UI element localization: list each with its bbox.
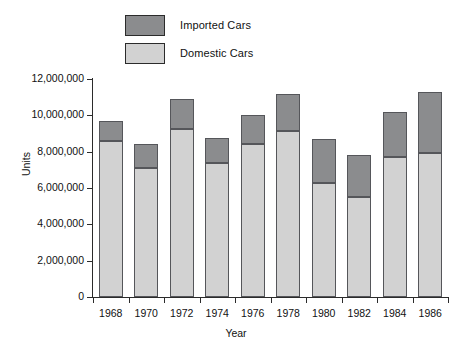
bar-segment-imported	[241, 115, 265, 143]
plot-area: 02,000,0004,000,0006,000,0008,000,00010,…	[93, 79, 448, 297]
bar-segment-imported	[347, 155, 371, 197]
bar-segment-imported	[276, 94, 300, 131]
bar-segment-imported	[205, 138, 229, 163]
y-axis-tick-label: 6,000,000	[37, 181, 84, 193]
x-axis-tick	[93, 297, 94, 303]
bar-group	[241, 115, 265, 297]
x-axis-title: Year	[0, 327, 472, 339]
x-axis-label: 1972	[164, 307, 200, 319]
y-axis-tick-label: 8,000,000	[37, 145, 84, 157]
bar-group	[134, 144, 158, 298]
y-axis-tick-label: 4,000,000	[37, 217, 84, 229]
x-axis-label: 1980	[306, 307, 342, 319]
y-axis-tick-label: 12,000,000	[31, 72, 84, 84]
bar-segment-domestic	[205, 163, 229, 297]
y-axis-title: Units	[20, 152, 32, 176]
legend-swatch-imported	[125, 15, 165, 36]
bar-group	[205, 138, 229, 297]
x-axis-tick	[448, 297, 449, 303]
y-axis-tick: 12,000,000	[87, 79, 93, 80]
x-axis-label: 1986	[413, 307, 449, 319]
legend-label-domestic: Domestic Cars	[180, 47, 253, 59]
x-axis-label: 1978	[271, 307, 307, 319]
x-axis-tick	[164, 297, 165, 303]
bar-segment-domestic	[347, 197, 371, 297]
x-axis-label: 1982	[342, 307, 378, 319]
x-axis-tick	[271, 297, 272, 303]
y-axis-tick-label: 2,000,000	[37, 254, 84, 266]
legend-swatch-domestic	[125, 43, 165, 64]
bar-group	[418, 92, 442, 297]
bar-segment-domestic	[99, 141, 123, 297]
x-axis-label: 1974	[200, 307, 236, 319]
y-axis-tick-label: 10,000,000	[31, 108, 84, 120]
bar-group	[347, 155, 371, 297]
bar-segment-domestic	[170, 129, 194, 297]
x-axis-label: 1976	[235, 307, 271, 319]
bar-group	[99, 121, 123, 297]
legend-label-imported: Imported Cars	[180, 19, 251, 31]
bar-segment-imported	[99, 121, 123, 141]
bar-segment-domestic	[241, 144, 265, 298]
y-axis-tick: 2,000,000	[87, 261, 93, 262]
x-axis-tick	[342, 297, 343, 303]
bar-segment-imported	[383, 112, 407, 157]
y-axis-tick: 6,000,000	[87, 188, 93, 189]
y-axis-tick: 4,000,000	[87, 224, 93, 225]
x-axis-tick	[377, 297, 378, 303]
bar-segment-domestic	[312, 183, 336, 297]
bar-group	[170, 99, 194, 297]
y-axis-tick-label: 0	[78, 290, 84, 302]
bar-segment-imported	[134, 144, 158, 169]
x-axis-tick	[413, 297, 414, 303]
legend-item-imported: Imported Cars	[125, 14, 325, 36]
x-axis-label: 1970	[129, 307, 165, 319]
bar-group	[312, 139, 336, 297]
bar-segment-domestic	[134, 168, 158, 297]
x-axis-tick	[235, 297, 236, 303]
bar-group	[383, 112, 407, 297]
x-axis-label: 1984	[377, 307, 413, 319]
bar-segment-imported	[418, 92, 442, 153]
y-axis-tick: 10,000,000	[87, 115, 93, 116]
bar-group	[276, 94, 300, 297]
y-axis-tick: 8,000,000	[87, 152, 93, 153]
x-axis-label: 1968	[93, 307, 129, 319]
x-axis-tick	[129, 297, 130, 303]
x-axis-tick	[306, 297, 307, 303]
bar-segment-domestic	[276, 131, 300, 297]
bar-chart: Imported Cars Domestic Cars Units 02,000…	[0, 0, 472, 345]
bar-segment-domestic	[418, 153, 442, 297]
bar-segment-imported	[170, 99, 194, 129]
chart-legend: Imported Cars Domestic Cars	[125, 14, 325, 70]
bar-segment-domestic	[383, 157, 407, 297]
x-axis-tick	[200, 297, 201, 303]
bar-segment-imported	[312, 139, 336, 183]
legend-item-domestic: Domestic Cars	[125, 42, 325, 64]
